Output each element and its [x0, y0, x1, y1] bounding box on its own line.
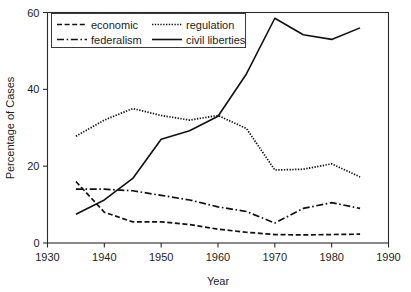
- x-tick-label: 1940: [92, 251, 116, 263]
- chart-legend: economicregulationfederalismcivil libert…: [52, 14, 246, 48]
- y-tick-label: 40: [27, 83, 39, 95]
- y-tick-label: 20: [27, 160, 39, 172]
- line-chart: 1930194019501960197019801990 0204060 Yea…: [0, 0, 411, 292]
- x-tick-label: 1970: [263, 251, 287, 263]
- legend-label-federalism: federalism: [91, 34, 142, 46]
- x-tick-label: 1960: [206, 251, 230, 263]
- chart-canvas: 1930194019501960197019801990 0204060 Yea…: [0, 0, 411, 292]
- x-axis-title: Year: [207, 275, 230, 287]
- y-axis-title: Percentage of Cases: [4, 76, 16, 179]
- legend-label-economic: economic: [91, 19, 139, 31]
- x-tick-label: 1980: [319, 251, 343, 263]
- x-tick-label: 1950: [149, 251, 173, 263]
- x-tick-label: 1990: [376, 251, 400, 263]
- y-tick-label: 60: [27, 7, 39, 19]
- x-tick-label: 1930: [35, 251, 59, 263]
- legend-label-regulation: regulation: [186, 19, 234, 31]
- legend-label-civil-liberties: civil liberties: [186, 34, 246, 46]
- y-tick-label: 0: [33, 237, 39, 249]
